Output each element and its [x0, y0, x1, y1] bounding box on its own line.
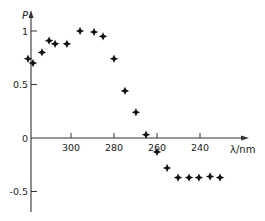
- x-tick-label: 300: [62, 142, 80, 153]
- data-point-marker-icon: [38, 48, 46, 56]
- data-point-marker-icon: [163, 164, 171, 172]
- data-point-marker-icon: [185, 173, 193, 181]
- x-tick-label: 240: [191, 142, 209, 153]
- y-tick-label: 0: [22, 133, 28, 144]
- chart: 30028026024010.50-0.5 P λ/nm: [0, 0, 265, 221]
- data-point-marker-icon: [206, 172, 214, 180]
- y-tick-label: 0.5: [13, 79, 28, 90]
- data-point-marker-icon: [121, 87, 129, 95]
- y-tick-label: -0.5: [9, 186, 28, 197]
- data-point-marker-icon: [76, 27, 84, 35]
- plot-area: 30028026024010.50-0.5 P λ/nm: [0, 0, 265, 221]
- data-point-marker-icon: [216, 173, 224, 181]
- data-point-marker-icon: [195, 173, 203, 181]
- y-axis-label: P: [22, 10, 29, 21]
- x-axis-label: λ/nm: [230, 144, 255, 155]
- y-tick-label: 1: [22, 26, 28, 37]
- data-point-marker-icon: [99, 32, 107, 40]
- data-point-marker-icon: [132, 108, 140, 116]
- data-point-marker-icon: [63, 40, 71, 48]
- data-point-marker-icon: [110, 55, 118, 63]
- x-axis-arrow-icon: [241, 136, 249, 141]
- ticks: 30028026024010.50-0.5: [9, 26, 209, 198]
- data-point-marker-icon: [29, 59, 37, 67]
- data-point-marker-icon: [90, 28, 98, 36]
- x-tick-label: 280: [105, 142, 123, 153]
- data-points: [24, 27, 224, 182]
- y-axis-arrow-icon: [29, 10, 34, 18]
- data-point-marker-icon: [174, 173, 182, 181]
